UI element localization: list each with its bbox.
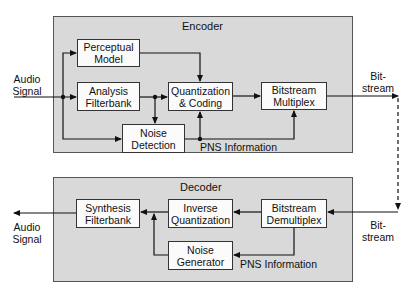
noise-detection-block: Noise Detection: [122, 124, 185, 153]
decoder-pns-label: PNS Information: [240, 258, 317, 270]
audio-input-label: Audio Signal: [6, 73, 48, 97]
perceptual-model-block: Perceptual Model: [77, 39, 140, 67]
bitstream-output-label: Bit- stream: [358, 70, 398, 94]
quantization-coding-block: Quantization & Coding: [168, 82, 233, 111]
analysis-filterbank-block: Analysis Filterbank: [77, 82, 140, 111]
inverse-quantization-block: Inverse Quantization: [168, 199, 233, 228]
synthesis-filterbank-block: Synthesis Filterbank: [76, 199, 140, 228]
bitstream-multiplex-block: Bitstream Multiplex: [261, 82, 327, 110]
encoder-pns-label: PNS Information: [200, 141, 277, 153]
audio-output-label: Audio Signal: [6, 221, 48, 245]
bitstream-demultiplex-block: Bitstream Demultiplex: [261, 199, 327, 228]
bitstream-input-label: Bit- stream: [358, 219, 398, 243]
noise-generator-block: Noise Generator: [168, 241, 233, 270]
